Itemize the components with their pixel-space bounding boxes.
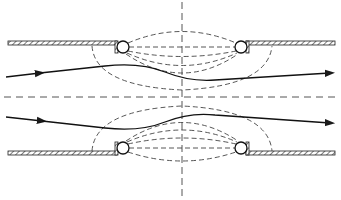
top-left-coil-icon xyxy=(117,41,129,53)
top-right-coil-icon xyxy=(235,41,247,53)
upper-ray xyxy=(6,65,330,80)
bottom-walls xyxy=(8,142,335,155)
bottom-left-coil-icon xyxy=(117,142,129,154)
lower-ray xyxy=(6,114,330,129)
bottom-right-coil-icon xyxy=(235,142,247,154)
magnetic-lens-diagram xyxy=(0,0,341,200)
